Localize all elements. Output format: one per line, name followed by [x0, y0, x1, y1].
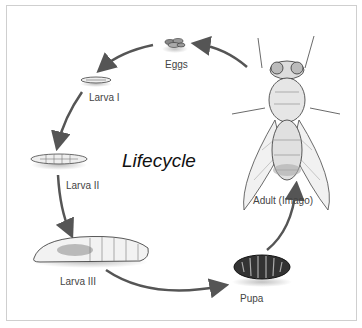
arrow-eggs-to-larva1 [102, 45, 153, 68]
adult-fly-icon [232, 36, 340, 210]
label-larva-2: Larva II [66, 180, 99, 191]
larva-1-icon [80, 77, 112, 87]
pupa-icon [232, 255, 292, 287]
label-adult: Adult (Imago) [253, 195, 313, 206]
eggs-icon [162, 39, 188, 54]
label-larva-1: Larva I [89, 92, 120, 103]
diagram-title: Lifecycle [122, 150, 196, 172]
arrow-adult-to-eggs [198, 44, 247, 67]
larva-2-icon [31, 154, 87, 170]
arrow-larva3-to-pupa [106, 270, 222, 290]
label-larva-3: Larva III [60, 276, 96, 287]
larva-3-icon [32, 236, 148, 268]
label-eggs: Eggs [165, 59, 188, 70]
arrow-larva1-to-larva2 [58, 92, 82, 144]
label-pupa: Pupa [240, 293, 263, 304]
